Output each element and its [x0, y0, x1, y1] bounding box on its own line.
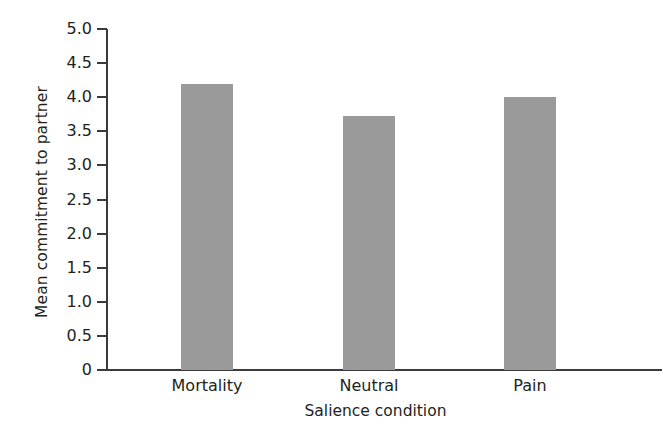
y-axis-tick-label: 1.5: [46, 260, 92, 276]
y-axis-tick-mark: [97, 267, 107, 269]
y-axis-tick-label: 1.0: [46, 294, 92, 310]
bar-chart-figure: Mean commitment to partner 5.04.54.03.53…: [0, 0, 663, 441]
y-axis-tick-mark: [97, 96, 107, 98]
y-axis-tick-label: 4.0: [46, 89, 92, 105]
y-axis-tick-mark: [97, 199, 107, 201]
y-axis-tick-mark: [97, 369, 107, 371]
bar: [504, 97, 556, 370]
y-axis-tick-label: 5.0: [46, 21, 92, 37]
y-axis-tick-labels: 5.04.54.03.53.02.52.01.51.00.50: [46, 0, 92, 441]
bar: [181, 84, 233, 370]
y-axis-tick-label: 3.5: [46, 123, 92, 139]
y-axis-tick-mark: [97, 28, 107, 30]
y-axis-tick-mark: [97, 301, 107, 303]
y-axis-tick-label: 4.5: [46, 55, 92, 71]
bar: [343, 116, 395, 370]
y-axis-tick-label: 3.0: [46, 157, 92, 173]
y-axis-tick-label: 0: [46, 362, 92, 378]
x-axis-label-container: Salience condition: [0, 402, 663, 420]
y-axis-tick-mark: [97, 130, 107, 132]
y-axis-tick-mark: [97, 233, 107, 235]
y-axis-tick-label: 0.5: [46, 328, 92, 344]
y-axis-tick-mark: [97, 335, 107, 337]
y-axis-tick-mark: [97, 164, 107, 166]
x-axis-tick-label: Mortality: [127, 377, 287, 395]
y-axis-tick-mark: [97, 62, 107, 64]
x-axis-label: Salience condition: [305, 402, 447, 420]
x-axis-tick-label: Pain: [450, 377, 610, 395]
y-axis-tick-label: 2.0: [46, 226, 92, 242]
y-axis-tick-label: 2.5: [46, 192, 92, 208]
x-axis-tick-label: Neutral: [289, 377, 449, 395]
